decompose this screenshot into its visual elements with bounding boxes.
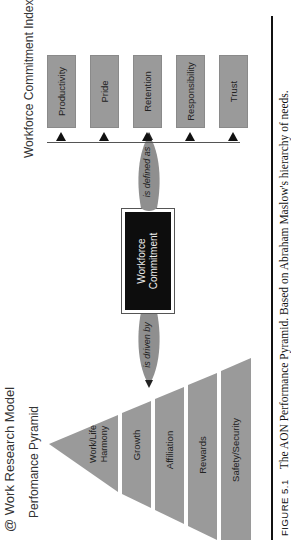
workforce-commitment-box: Workforce Commitment	[121, 208, 175, 314]
figure-caption-text: The AON Performance Pyramid. Based on Ab…	[278, 90, 290, 469]
pyramid-label-growth: Growth	[131, 395, 142, 495]
workforce-commitment-label: Workforce Commitment	[125, 212, 171, 310]
figure-caption: FIGURE 5.1The AON Performance Pyramid. B…	[278, 90, 290, 536]
pyramid-label-rewards: Rewards	[197, 395, 208, 515]
index-title: Workforce Commitment Index	[22, 0, 36, 158]
index-connector-line	[47, 142, 240, 143]
caption-rule	[271, 16, 273, 540]
arrow-responsibility-icon	[185, 132, 195, 141]
diagram-stage: @ Work Research Model Perfomance Pyramid…	[0, 0, 291, 540]
pyramid-label-work-life: Work/Life Harmony	[88, 408, 110, 480]
arrow-retention-icon	[142, 132, 152, 141]
defined-as-label: is defined as	[142, 136, 152, 208]
arrow-productivity-icon	[56, 132, 66, 141]
arrow-trust-icon	[228, 132, 238, 141]
pyramid-label-safety: Safety/Security	[230, 385, 241, 515]
index-item-pride: Pride	[90, 55, 119, 128]
index-item-retention: Retention	[133, 55, 162, 128]
index-item-productivity: Productivity	[47, 55, 76, 128]
index-item-trust: Trust	[219, 55, 248, 128]
pyramid-label-affiliation: Affiliation	[164, 395, 175, 505]
driven-by-label: is driven by	[142, 310, 152, 380]
arrow-pride-icon	[99, 132, 109, 141]
index-item-responsibility: Responsibility	[176, 55, 205, 128]
figure-number: FIGURE 5.1	[279, 479, 290, 536]
